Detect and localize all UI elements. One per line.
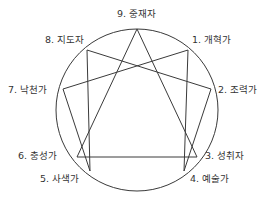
label-point-7: 7. 낙천가 <box>8 85 47 95</box>
label-point-9: 9. 중재자 <box>117 9 156 19</box>
enneagram-diagram <box>0 0 269 201</box>
label-point-6: 6. 충성가 <box>18 151 57 161</box>
label-point-4: 4. 예술가 <box>190 174 229 184</box>
label-point-2: 2. 조력가 <box>218 85 257 95</box>
label-point-8: 8. 지도자 <box>45 35 84 45</box>
outer-circle <box>56 29 218 191</box>
label-point-1: 1. 개혁가 <box>192 35 231 45</box>
label-point-5: 5. 사색가 <box>40 174 79 184</box>
inner-triangle <box>77 29 197 157</box>
hexad-figure <box>63 50 211 171</box>
label-point-3: 3. 성취자 <box>205 151 244 161</box>
